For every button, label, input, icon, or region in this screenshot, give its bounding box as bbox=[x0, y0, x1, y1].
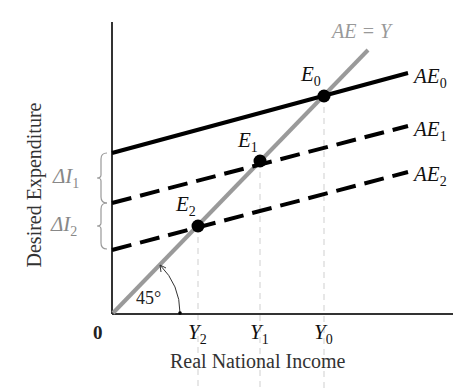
ae1-label: AE1 bbox=[414, 117, 447, 145]
y0-tick-label: Y0 bbox=[314, 320, 333, 348]
y2-tick-label: Y2 bbox=[188, 320, 207, 348]
ae2-label: AE2 bbox=[414, 162, 447, 190]
y1-tick-label: Y1 bbox=[250, 320, 269, 348]
e0-label: E0 bbox=[301, 62, 321, 90]
x-axis-label: Real National Income bbox=[170, 350, 346, 373]
angle-label: 45° bbox=[136, 288, 161, 309]
e1-label: E1 bbox=[238, 128, 258, 156]
e2-label: E2 bbox=[176, 192, 196, 220]
delta-i2-label: ΔI2 bbox=[51, 212, 77, 240]
y-axis-label: Desired Expenditure bbox=[23, 103, 46, 268]
forty-five-line-label: AE = Y bbox=[332, 20, 391, 43]
delta-i1-label: ΔI1 bbox=[53, 164, 79, 192]
ae0-label: AE0 bbox=[414, 64, 447, 92]
origin-label: 0 bbox=[93, 322, 103, 344]
